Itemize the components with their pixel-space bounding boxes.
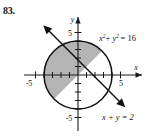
circle-eq-exponent-2: 2 bbox=[116, 33, 119, 39]
svg-text:x2+ y2= 16: x2+ y2= 16 bbox=[98, 33, 136, 43]
y-axis-arrow-icon bbox=[75, 17, 80, 24]
circle-eq-plus: + bbox=[106, 33, 113, 43]
x-axis-arrow-icon bbox=[136, 72, 143, 77]
x-axis-name-label: x bbox=[133, 63, 138, 72]
circle-eq-rhs: = 16 bbox=[121, 33, 136, 43]
textbook-figure: 83. bbox=[0, 0, 152, 138]
line-equation-annotation: x + y = 2 bbox=[101, 112, 135, 122]
y-axis-positive-tick-label: 5 bbox=[68, 29, 72, 38]
y-axis-negative-tick-label: -5 bbox=[66, 114, 73, 123]
x-axis-negative-tick-label: -5 bbox=[26, 79, 33, 88]
graph-canvas: -5 5 5 -5 x y x2+ y2= 16 x + y = 2 bbox=[0, 0, 152, 138]
y-axis-name-label: y bbox=[70, 15, 75, 24]
circle-equation-annotation: x2+ y2= 16 bbox=[98, 33, 136, 43]
x-axis-positive-tick-label: 5 bbox=[119, 79, 123, 88]
